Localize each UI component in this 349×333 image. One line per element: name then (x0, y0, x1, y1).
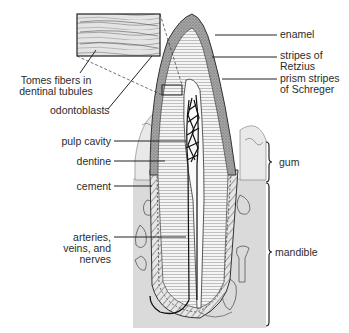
label-schreger-line2: of Schreger (280, 84, 340, 95)
label-tomes-fibers: Tomes fibers in dentinal tubules (4, 75, 108, 97)
braces (266, 142, 272, 326)
label-pulp-cavity: pulp cavity (20, 136, 111, 147)
label-arteries: arteries, veins, and nerves (20, 232, 111, 265)
label-cement: cement (20, 181, 111, 192)
mandible-brace (266, 183, 272, 326)
label-odontoblasts: odontoblasts (50, 105, 110, 116)
label-enamel: enamel (280, 29, 314, 40)
label-retzius: stripes of Retzius (280, 50, 323, 72)
gum-brace (266, 142, 272, 182)
label-arteries-line3: nerves (20, 254, 111, 265)
label-dentine: dentine (20, 156, 111, 167)
label-retzius-line2: Retzius (280, 61, 323, 72)
label-mandible: mandible (275, 247, 318, 258)
label-gum: gum (279, 157, 299, 168)
label-schreger: prism stripes of Schreger (280, 73, 340, 95)
label-tomes-fibers-line2: dentinal tubules (4, 86, 108, 97)
